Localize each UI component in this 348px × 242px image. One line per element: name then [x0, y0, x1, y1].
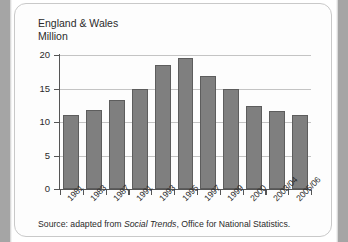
y-tick-label-0: 0 — [28, 184, 50, 194]
source-publication: Social Trends — [124, 219, 176, 229]
source-prefix: Source: adapted from — [38, 219, 124, 229]
y-tick-label-5: 5 — [28, 151, 50, 161]
gridline-20 — [60, 55, 311, 56]
chart-title: England & Wales — [38, 17, 118, 30]
bar-1981 — [63, 115, 79, 189]
bar-1991 — [132, 89, 148, 190]
page-margin-right — [338, 0, 348, 242]
source-note: Source: adapted from Social Trends, Offi… — [38, 219, 290, 229]
bar-1995 — [178, 58, 194, 189]
chart-units-label: Million — [38, 30, 68, 43]
chart-card: England & Wales Million 05101520 1981198… — [14, 3, 332, 237]
y-tick-label-10: 10 — [28, 117, 50, 127]
bar-2003/04 — [269, 111, 285, 189]
y-tick-label-15: 15 — [28, 84, 50, 94]
bar-1983 — [86, 110, 102, 189]
x-tick-mark-0 — [60, 190, 61, 195]
bar-1987 — [109, 100, 125, 189]
page-background: England & Wales Million 05101520 1981198… — [0, 0, 348, 242]
source-suffix: , Office for National Statistics. — [176, 219, 290, 229]
y-axis-line — [59, 54, 60, 190]
bar-2000 — [246, 106, 262, 189]
page-margin-left — [0, 0, 10, 242]
bar-1993 — [155, 65, 171, 189]
bar-1999 — [223, 89, 239, 190]
bar-1997 — [200, 76, 216, 189]
y-tick-label-20: 20 — [28, 50, 50, 60]
